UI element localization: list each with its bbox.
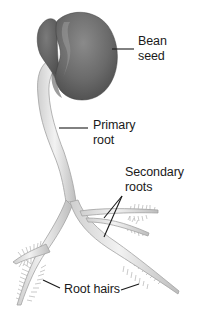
label-bean-seed-line2: seed — [138, 49, 167, 64]
label-secondary-roots-line1: Secondary — [125, 165, 184, 180]
bean-seed-root-diagram — [0, 0, 206, 316]
left-secondary-root — [13, 244, 50, 264]
label-primary-root-line2: root — [93, 133, 135, 148]
label-root-hairs-line1: Root hairs — [64, 282, 120, 297]
label-bean-seed-line1: Bean — [138, 34, 167, 49]
right-secondary-root-upper — [80, 209, 158, 216]
label-secondary-roots: Secondary roots — [125, 165, 184, 195]
label-bean-seed: Bean seed — [138, 34, 167, 64]
leader-root-hairs-left — [43, 280, 60, 288]
label-primary-root-line1: Primary — [93, 118, 135, 133]
label-primary-root: Primary root — [93, 118, 135, 148]
label-root-hairs: Root hairs — [64, 282, 120, 297]
leader-secondary-roots-lower — [104, 196, 122, 237]
leader-root-hairs-right — [121, 284, 139, 290]
leader-secondary-roots-upper — [104, 196, 122, 218]
label-secondary-roots-line2: roots — [125, 180, 184, 195]
